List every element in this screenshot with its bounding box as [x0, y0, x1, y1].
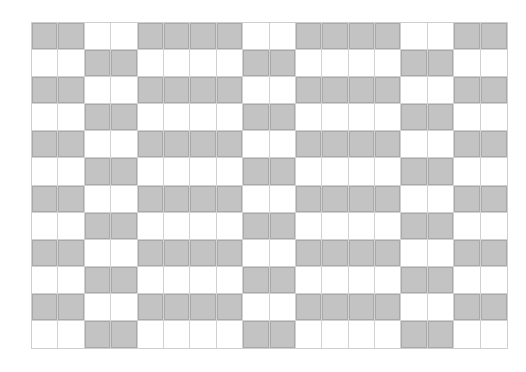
- grid-cell-filled: [243, 321, 269, 348]
- grid-cell-empty: [164, 321, 190, 348]
- grid-cell-empty: [428, 186, 454, 213]
- grid-cell-filled: [58, 186, 84, 213]
- grid-cell-empty: [270, 131, 296, 158]
- grid-cell-empty: [111, 77, 137, 104]
- grid-cell-empty: [270, 77, 296, 104]
- grid-cell-filled: [243, 158, 269, 185]
- grid-cell-empty: [58, 213, 84, 240]
- grid-cell-filled: [138, 294, 164, 321]
- grid-cell-empty: [454, 50, 480, 77]
- grid-cell-filled: [270, 321, 296, 348]
- grid-cell-empty: [138, 104, 164, 131]
- grid-cell-filled: [481, 294, 507, 321]
- grid-cell-filled: [32, 186, 58, 213]
- grid-cell-empty: [401, 186, 427, 213]
- grid-cell-filled: [32, 294, 58, 321]
- grid-cell-empty: [481, 321, 507, 348]
- grid-cell-filled: [85, 50, 111, 77]
- grid-cell-empty: [454, 104, 480, 131]
- grid-cell-empty: [375, 104, 401, 131]
- grid-cell-filled: [375, 186, 401, 213]
- grid-cell-empty: [428, 23, 454, 50]
- grid-cell-filled: [428, 158, 454, 185]
- grid-cell-filled: [58, 294, 84, 321]
- grid-cell-filled: [428, 213, 454, 240]
- pattern-grid: [31, 22, 508, 349]
- grid-cell-filled: [296, 240, 322, 267]
- grid-cell-filled: [322, 131, 348, 158]
- grid-cell-filled: [164, 77, 190, 104]
- grid-cell-empty: [243, 23, 269, 50]
- grid-cell-empty: [58, 104, 84, 131]
- grid-cell-empty: [138, 50, 164, 77]
- grid-cell-filled: [349, 240, 375, 267]
- grid-cell-filled: [243, 50, 269, 77]
- grid-cell-filled: [401, 213, 427, 240]
- grid-cell-filled: [296, 294, 322, 321]
- grid-cell-empty: [85, 77, 111, 104]
- grid-cell-filled: [85, 213, 111, 240]
- grid-cell-empty: [296, 104, 322, 131]
- grid-cell-empty: [164, 267, 190, 294]
- grid-cell-filled: [111, 50, 137, 77]
- grid-cell-filled: [164, 23, 190, 50]
- grid-cell-filled: [138, 77, 164, 104]
- grid-cell-empty: [32, 104, 58, 131]
- grid-cell-filled: [322, 23, 348, 50]
- grid-cell-empty: [296, 213, 322, 240]
- grid-cell-filled: [111, 213, 137, 240]
- grid-cell-filled: [138, 186, 164, 213]
- grid-cell-filled: [85, 321, 111, 348]
- grid-cell-filled: [58, 131, 84, 158]
- grid-cell-empty: [375, 213, 401, 240]
- grid-cell-empty: [349, 104, 375, 131]
- grid-cell-empty: [401, 240, 427, 267]
- grid-cell-filled: [85, 104, 111, 131]
- grid-cell-filled: [270, 158, 296, 185]
- grid-cell-filled: [349, 77, 375, 104]
- grid-cell-empty: [296, 321, 322, 348]
- grid-cell-empty: [164, 213, 190, 240]
- grid-cell-empty: [481, 213, 507, 240]
- grid-cell-empty: [243, 294, 269, 321]
- grid-cell-filled: [322, 294, 348, 321]
- grid-cell-filled: [58, 240, 84, 267]
- grid-cell-empty: [217, 158, 243, 185]
- grid-cell-empty: [481, 50, 507, 77]
- grid-cell-empty: [243, 131, 269, 158]
- grid-cell-filled: [401, 267, 427, 294]
- grid-cell-empty: [85, 23, 111, 50]
- grid-cell-empty: [322, 213, 348, 240]
- grid-cell-empty: [270, 294, 296, 321]
- grid-cell-empty: [217, 321, 243, 348]
- grid-cell-filled: [322, 240, 348, 267]
- grid-cell-filled: [375, 23, 401, 50]
- grid-cell-empty: [454, 213, 480, 240]
- grid-cell-filled: [217, 77, 243, 104]
- grid-cell-filled: [58, 23, 84, 50]
- grid-cell-filled: [454, 131, 480, 158]
- grid-cell-filled: [164, 186, 190, 213]
- grid-cell-empty: [85, 131, 111, 158]
- grid-cell-empty: [454, 267, 480, 294]
- grid-cell-empty: [217, 104, 243, 131]
- grid-cell-filled: [190, 294, 216, 321]
- grid-cell-filled: [428, 267, 454, 294]
- grid-cell-empty: [401, 294, 427, 321]
- grid-cell-empty: [349, 267, 375, 294]
- grid-cell-filled: [481, 23, 507, 50]
- grid-cell-empty: [164, 50, 190, 77]
- grid-cell-empty: [217, 213, 243, 240]
- grid-cell-filled: [32, 131, 58, 158]
- grid-cell-empty: [349, 321, 375, 348]
- grid-cell-filled: [375, 294, 401, 321]
- grid-cell-filled: [454, 77, 480, 104]
- grid-cell-empty: [401, 131, 427, 158]
- grid-cell-empty: [375, 267, 401, 294]
- grid-cell-empty: [190, 213, 216, 240]
- grid-cell-empty: [243, 186, 269, 213]
- grid-cell-filled: [375, 131, 401, 158]
- grid-cell-filled: [138, 240, 164, 267]
- grid-cell-empty: [375, 50, 401, 77]
- grid-cell-filled: [375, 240, 401, 267]
